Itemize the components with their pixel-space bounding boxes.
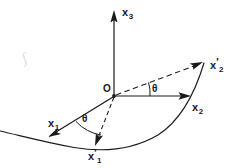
axis-label-x1: x1 [48, 118, 59, 129]
origin-point [112, 94, 116, 98]
coordinate-rotation-figure: ʃ O x3 x2 x1 x′2 x′1 θ θ [0, 0, 238, 168]
origin-label: O [103, 84, 111, 94]
axis-label-x1-base: x [48, 117, 54, 129]
axis-label-x3-sub: 3 [129, 12, 133, 21]
axis-label-x1-prime: x′1 [88, 151, 101, 162]
diagram-canvas [0, 0, 238, 168]
axis-label-x3-base: x [122, 6, 128, 18]
axis-label-x2-prime: x′2 [210, 60, 223, 71]
angle-label-theta-upper: θ [152, 84, 157, 94]
axis-label-x2-prime-sub: 2 [219, 65, 223, 74]
theta-lower-arc [76, 122, 101, 136]
axis-label-x2: x2 [192, 102, 203, 113]
axis-label-x3: x3 [122, 7, 133, 18]
axis-label-x1-sub: 1 [55, 123, 59, 132]
axis-label-x2-base: x [192, 101, 198, 113]
axis-x2-prime-arrowhead [190, 62, 203, 70]
theta-upper-arc [149, 83, 151, 97]
axis-x1-prime-line [98, 97, 114, 138]
axis-label-x2-sub: 2 [199, 107, 203, 116]
angle-label-theta-lower: θ [82, 114, 87, 124]
axis-label-x1-prime-sub: 1 [97, 156, 101, 165]
